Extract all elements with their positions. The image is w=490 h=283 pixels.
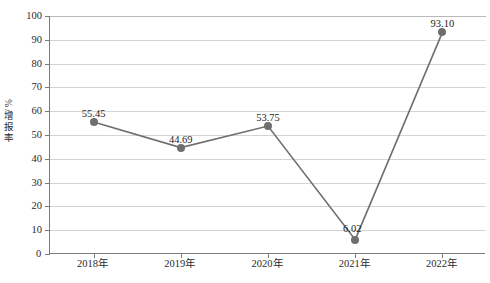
data-point-label: 93.10: [412, 19, 472, 30]
chart-screenshot: / % 增 报 率 102030405060708090100 0 55.454…: [0, 0, 490, 283]
y-axis-tick-label: 100: [4, 11, 42, 22]
y-axis-tick-label: 20: [4, 201, 42, 212]
plot-area: 55.4544.6953.756.0293.10: [49, 16, 485, 254]
y-axis-tick-label: 70: [4, 82, 42, 93]
y-axis-tick-label: 30: [4, 178, 42, 189]
line-series: [50, 16, 486, 254]
data-point-label: 6.02: [322, 224, 382, 235]
y-axis-tick-label: 40: [4, 154, 42, 165]
x-axis-tick-label: 2019年: [140, 259, 220, 270]
data-point-marker[interactable]: [351, 236, 359, 244]
y-axis-tick-label: 90: [4, 35, 42, 46]
x-axis-tick-label: 2021年: [314, 259, 394, 270]
y-axis-tick-label: 60: [4, 106, 42, 117]
y-axis-tick: [45, 254, 50, 255]
y-axis-tick-label: 10: [4, 225, 42, 236]
x-axis-tick-label: 2018年: [53, 259, 133, 270]
y-axis-tick-label: 80: [4, 59, 42, 70]
data-point-label: 44.69: [151, 135, 211, 146]
series-line: [94, 32, 443, 239]
data-point-label: 55.45: [64, 109, 124, 120]
y-axis-tick-label: 50: [4, 130, 42, 141]
data-point-label: 53.75: [238, 113, 298, 124]
x-axis-tick-label: 2022年: [401, 259, 481, 270]
x-axis-tick-label: 2020年: [227, 259, 307, 270]
y-axis-origin-label: 0: [36, 249, 41, 260]
